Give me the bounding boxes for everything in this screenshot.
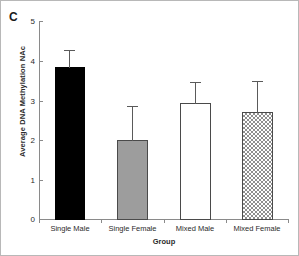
- error-bar-cap-mixed-female: [252, 81, 263, 82]
- error-bar-cap-mixed-male: [190, 82, 201, 83]
- y-axis-title: Average DNA Methylation NAc: [18, 37, 27, 167]
- bar-mixed-male[interactable]: [180, 103, 211, 220]
- error-bar-stem-mixed-male: [195, 82, 196, 104]
- figure-panel: C 5 4 3 2 1 0 Average DNA Methylation NA…: [0, 0, 299, 256]
- x-category-label-mixed-female: Mixed Female: [226, 225, 288, 233]
- x-tick-2: [164, 219, 165, 223]
- error-bar-cap-single-female: [127, 106, 138, 107]
- error-bar-stem-single-female: [132, 106, 133, 141]
- y-tick-label-0: 0: [19, 216, 35, 224]
- x-category-label-single-male: Single Male: [39, 225, 101, 233]
- bar-single-female[interactable]: [117, 140, 148, 220]
- y-tick-5: [39, 21, 43, 22]
- bar-mixed-female[interactable]: [242, 112, 273, 220]
- x-tick-1: [101, 219, 102, 223]
- y-tick-1: [39, 180, 43, 181]
- y-tick-2: [39, 140, 43, 141]
- x-tick-4: [288, 219, 289, 223]
- x-tick-0: [39, 219, 40, 223]
- x-category-label-single-female: Single Female: [101, 225, 164, 233]
- error-bar-stem-single-male: [69, 50, 70, 68]
- x-category-label-mixed-male: Mixed Male: [164, 225, 226, 233]
- error-bar-cap-single-male: [64, 50, 75, 51]
- bar-single-male[interactable]: [55, 67, 85, 220]
- error-bar-stem-mixed-female: [257, 81, 258, 113]
- x-axis-title: Group: [39, 237, 289, 246]
- panel-letter: C: [9, 11, 18, 23]
- y-tick-3: [39, 101, 43, 102]
- y-tick-4: [39, 61, 43, 62]
- x-tick-3: [226, 219, 227, 223]
- y-tick-label-1: 1: [19, 177, 35, 185]
- y-axis-line: [39, 21, 40, 220]
- y-tick-label-5: 5: [19, 18, 35, 26]
